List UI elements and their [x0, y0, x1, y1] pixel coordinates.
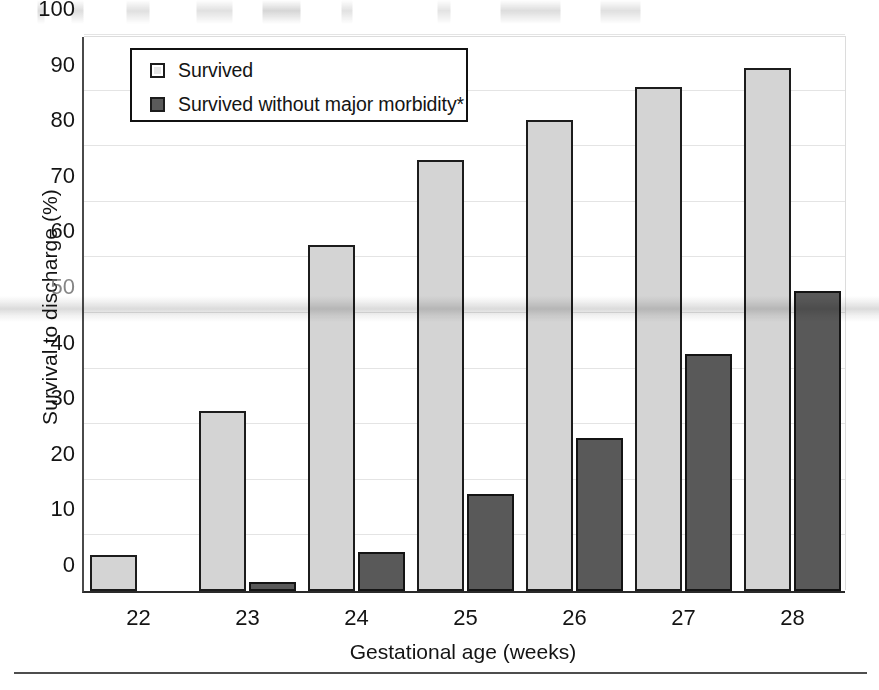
legend-label-survived: Survived: [178, 59, 253, 82]
bar-27-survived: [635, 87, 682, 591]
legend-item-survived: Survived: [150, 59, 466, 82]
legend-label-survived-no-morbidity: Survived without major morbidity*: [178, 93, 464, 116]
x-tick-label-23: 23: [235, 605, 259, 631]
x-tick-label-27: 27: [671, 605, 695, 631]
y-tick-label-20: 20: [51, 441, 75, 467]
y-axis-title: Survival to discharge (%): [38, 157, 62, 457]
x-tick-label-22: 22: [126, 605, 150, 631]
x-tick-label-24: 24: [344, 605, 368, 631]
y-tick-label-70: 70: [51, 163, 75, 189]
bar-22-survived: [90, 555, 137, 591]
bar-25-no-morbidity: [467, 494, 514, 591]
bar-26-survived: [526, 120, 573, 591]
bar-23-survived: [199, 411, 246, 591]
y-tick-label-30: 30: [51, 385, 75, 411]
y-tick-label-80: 80: [51, 107, 75, 133]
y-tick-label-60: 60: [51, 218, 75, 244]
bar-23-no-morbidity: [249, 582, 296, 591]
x-tick-label-28: 28: [780, 605, 804, 631]
figure-bar-chart: Survival to discharge (%) 01020304050607…: [0, 0, 879, 690]
y-tick-label-100: 100: [38, 0, 75, 22]
y-tick-label-90: 90: [51, 52, 75, 78]
bar-27-no-morbidity: [685, 354, 732, 591]
bar-24-no-morbidity: [358, 552, 405, 591]
x-axis-title: Gestational age (weeks): [80, 640, 846, 664]
bar-25-survived: [417, 160, 464, 591]
y-tick-label-40: 40: [51, 330, 75, 356]
bar-group-27: [635, 37, 732, 591]
bar-28-no-morbidity: [794, 291, 841, 591]
y-tick-label-0: 0: [63, 552, 75, 578]
footer-rule: [14, 672, 867, 674]
x-tick-label-26: 26: [562, 605, 586, 631]
y-tick-label-50: 50: [51, 274, 75, 300]
legend: Survived Survived without major morbidit…: [130, 48, 468, 122]
scan-artifact-top: [0, 0, 879, 24]
bar-24-survived: [308, 245, 355, 591]
bar-28-survived: [744, 68, 791, 591]
legend-item-survived-no-morbidity: Survived without major morbidity*: [150, 93, 466, 116]
gridline-100: [84, 34, 845, 35]
bar-26-no-morbidity: [576, 438, 623, 591]
plot-frame-right: [845, 36, 846, 590]
legend-swatch-light-icon: [150, 63, 165, 78]
y-tick-label-10: 10: [51, 496, 75, 522]
bar-group-28: [744, 37, 841, 591]
x-tick-label-25: 25: [453, 605, 477, 631]
legend-swatch-dark-icon: [150, 97, 165, 112]
bar-group-26: [526, 37, 623, 591]
